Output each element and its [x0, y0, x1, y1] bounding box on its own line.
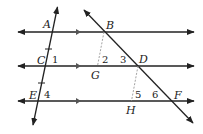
- label-e: E: [28, 89, 37, 102]
- angle-label-1: 1: [52, 54, 58, 65]
- angle-label-6: 6: [152, 89, 158, 100]
- angle-label-3: 3: [120, 54, 126, 65]
- label-h: H: [125, 104, 136, 117]
- parallel-arrow-icon: [76, 63, 81, 69]
- angle-label-4: 4: [44, 89, 50, 100]
- label-d: D: [138, 53, 148, 66]
- parallel-arrow-icon: [76, 98, 81, 104]
- label-a: A: [42, 18, 51, 31]
- label-g: G: [91, 69, 100, 82]
- label-f: F: [173, 89, 182, 102]
- label-b: B: [105, 19, 114, 32]
- geometry-diagram: A B C D E F G H 1 2 3 4 5 6: [0, 0, 203, 134]
- angle-label-2: 2: [102, 54, 108, 65]
- label-c: C: [37, 54, 46, 67]
- angle-label-5: 5: [135, 89, 141, 100]
- parallel-arrow-icon: [76, 29, 81, 35]
